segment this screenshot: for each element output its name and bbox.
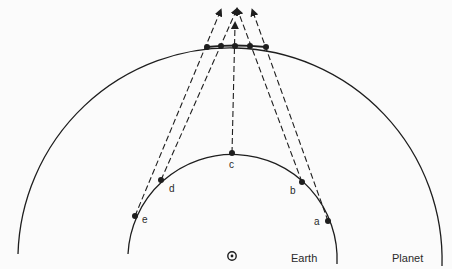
diagram-canvas: [0, 0, 452, 269]
planet-label: Planet: [392, 253, 423, 264]
planet-position-5: [263, 44, 269, 50]
sight-line-b: [238, 11, 302, 182]
retrograde-diagram: abcde Earth Planet: [0, 0, 452, 269]
earth-position-label-d: d: [169, 184, 175, 194]
earth-orbit: [128, 154, 337, 264]
earth-position-a: [325, 218, 331, 224]
earth-position-label-e: e: [142, 215, 148, 225]
sight-line-e: [135, 12, 220, 216]
planet-position-1: [204, 44, 210, 50]
earth-position-d: [158, 177, 164, 183]
planet-position-2: [218, 43, 224, 49]
planet-position-3: [232, 43, 238, 49]
earth-position-e: [132, 213, 138, 219]
sun-icon: [228, 252, 236, 260]
earth-label: Earth: [291, 253, 317, 264]
earth-position-label-c: c: [229, 160, 234, 170]
sight-lines: [135, 11, 328, 221]
earth-position-c: [229, 150, 235, 156]
planet-position-4: [247, 43, 253, 49]
earth-position-label-b: b: [290, 186, 296, 196]
earth-position-label-a: a: [314, 217, 320, 227]
planet-orbit: [18, 48, 442, 266]
earth-position-b: [299, 179, 305, 185]
